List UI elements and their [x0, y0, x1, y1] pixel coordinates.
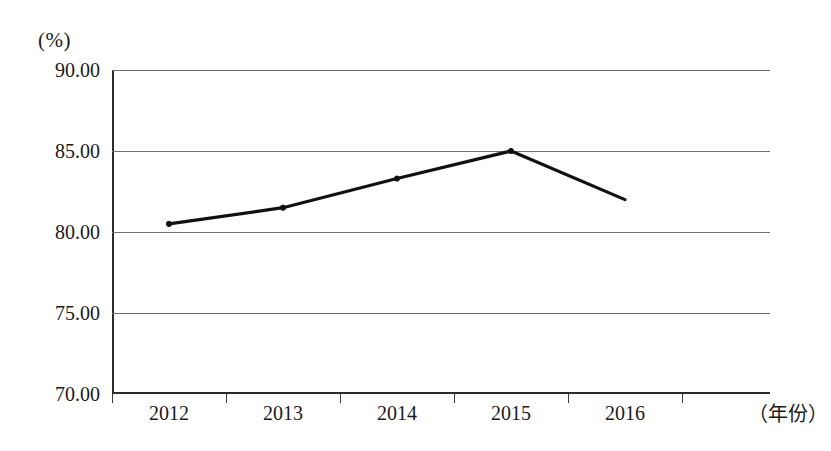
x-axis-tick [682, 394, 683, 403]
y-axis-tick-label: 85.00 [55, 140, 100, 163]
x-axis-title: （年份） [748, 398, 828, 427]
y-axis-tick-label: 75.00 [55, 302, 100, 325]
x-axis-tick-label: 2013 [263, 402, 303, 425]
y-axis-tick-label: 70.00 [55, 383, 100, 406]
data-point-marker [508, 148, 513, 153]
plot-area: 70.0075.0080.0085.0090.00 20122013201420… [112, 70, 770, 394]
data-point-marker [280, 205, 285, 210]
chart-figure: (%) 70.0075.0080.0085.0090.00 2012201320… [0, 0, 831, 451]
x-axis-tick [340, 394, 341, 403]
x-axis-tick-label: 2016 [605, 402, 645, 425]
data-point-marker [166, 221, 171, 226]
x-axis-tick-label: 2012 [149, 402, 189, 425]
x-axis-tick [454, 394, 455, 403]
y-axis-tick-label: 80.00 [55, 221, 100, 244]
y-axis-unit-label: (%) [38, 28, 71, 53]
y-axis-tick-label: 90.00 [55, 59, 100, 82]
data-point-marker [394, 176, 399, 181]
series-line [169, 151, 625, 224]
series-graphic [112, 70, 770, 394]
x-axis-tick [226, 394, 227, 403]
x-axis-tick-label: 2015 [491, 402, 531, 425]
x-axis-tick-label: 2014 [377, 402, 417, 425]
series-markers [166, 148, 513, 226]
x-axis-tick [568, 394, 569, 403]
x-axis-tick [112, 394, 113, 403]
